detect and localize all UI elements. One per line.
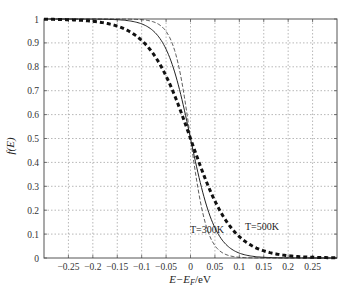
- x-tick-label: 0: [188, 262, 193, 272]
- x-tick-label: 0.2: [282, 262, 294, 272]
- y-tick-label: 0.7: [27, 86, 39, 96]
- x-tick-label: −0.15: [106, 262, 128, 272]
- x-tick-label: 0.1: [233, 262, 245, 272]
- y-tick-label: 0.4: [27, 158, 39, 168]
- x-tick-label: −0.05: [155, 262, 177, 272]
- y-tick-label: 0.1: [27, 230, 39, 240]
- x-tick-label: 0.25: [304, 262, 321, 272]
- annotation-t300: T=300K: [190, 224, 225, 235]
- x-axis-label: E−EF/eV: [168, 273, 211, 287]
- annotation-t500: T=500K: [245, 221, 280, 232]
- x-tick-label: −0.1: [133, 262, 150, 272]
- y-tick-label: 0.8: [27, 62, 39, 72]
- x-tick-label: 0.15: [255, 262, 272, 272]
- x-tick-label: −0.2: [84, 262, 101, 272]
- y-tick-label: 0.3: [27, 182, 39, 192]
- x-tick-label: −0.25: [57, 262, 79, 272]
- x-tick-label: 0.05: [207, 262, 224, 272]
- axis-ticks: −0.25−0.2−0.15−0.1−0.0500.050.10.150.20.…: [27, 15, 337, 273]
- y-tick-label: 1: [34, 15, 39, 25]
- y-tick-label: 0.5: [27, 134, 39, 144]
- y-tick-label: 0.9: [27, 38, 39, 48]
- y-axis-label: f(E): [4, 137, 17, 154]
- y-tick-label: 0.2: [27, 206, 39, 216]
- y-tick-label: 0: [34, 254, 39, 264]
- y-tick-label: 0.6: [27, 110, 39, 120]
- fermi-dirac-chart: −0.25−0.2−0.15−0.1−0.0500.050.10.150.20.…: [0, 0, 351, 297]
